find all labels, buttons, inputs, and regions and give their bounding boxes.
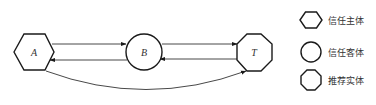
edge-a-to-t-curved	[46, 71, 246, 90]
node-a-label: A	[30, 47, 38, 58]
legend-item-trust-subject: 信任主体	[300, 12, 364, 28]
legend-item-recommending-entity: 推荐实体	[301, 70, 364, 90]
trust-diagram: A B T 信任主体 信任客体 推荐实体	[0, 0, 376, 105]
legend: 信任主体 信任客体 推荐实体	[300, 12, 364, 90]
node-a: A	[14, 34, 54, 70]
node-b: B	[126, 34, 162, 70]
node-b-label: B	[141, 47, 147, 58]
hexagon-icon	[300, 12, 322, 28]
legend-label-trust-object: 信任客体	[328, 47, 364, 58]
legend-label-recommending-entity: 推荐实体	[328, 75, 364, 86]
octagon-icon	[301, 70, 321, 90]
node-t: T	[237, 34, 272, 71]
circle-icon	[301, 42, 321, 62]
legend-item-trust-object: 信任客体	[301, 42, 364, 62]
legend-label-trust-subject: 信任主体	[328, 15, 364, 26]
